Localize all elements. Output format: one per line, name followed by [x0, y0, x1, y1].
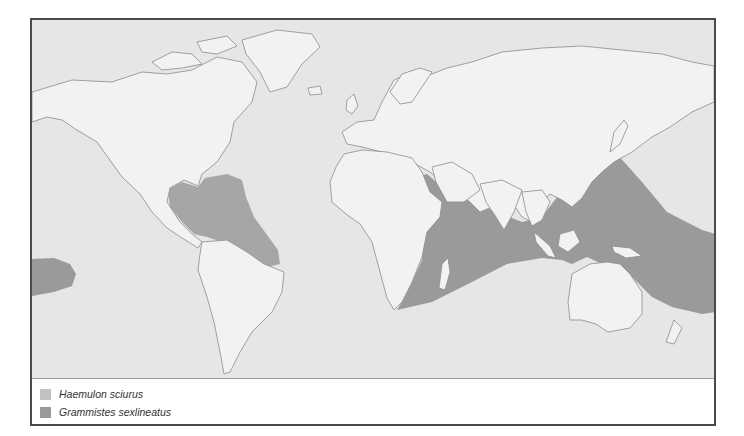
world-map-svg [32, 20, 714, 378]
legend-item-haemulon-sciurus: Haemulon sciurus [40, 386, 143, 402]
legend-item-grammistes-sexlineatus: Grammistes sexlineatus [40, 404, 171, 420]
legend-swatch-light-gray [40, 389, 51, 400]
legend-label: Haemulon sciurus [59, 388, 143, 400]
legend-label: Grammistes sexlineatus [59, 406, 171, 418]
world-map [32, 20, 714, 379]
legend-swatch-dark-gray [40, 407, 51, 418]
map-legend: Haemulon sciurus Grammistes sexlineatus [32, 379, 714, 424]
map-figure: Haemulon sciurus Grammistes sexlineatus [30, 18, 716, 426]
